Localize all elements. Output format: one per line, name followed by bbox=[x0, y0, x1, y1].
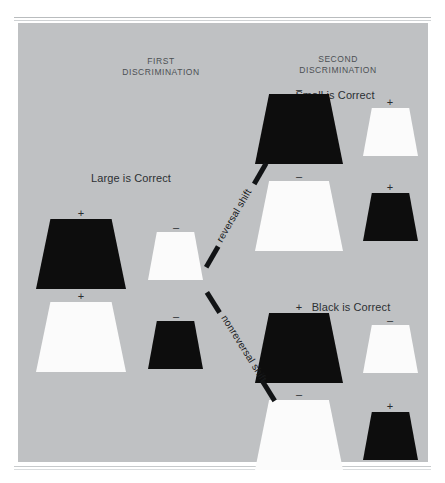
top-rule-lower bbox=[14, 20, 431, 21]
sign-reversal-r1-small-white: + bbox=[380, 97, 400, 107]
sign-nonreversal-r2-small-black: + bbox=[380, 401, 400, 411]
column-title-second-discrimination: SECOND DISCRIMINATION bbox=[273, 54, 403, 76]
sign-reversal-r2-large-white: – bbox=[289, 171, 309, 181]
stimulus-reversal-r2-small-black bbox=[363, 193, 418, 241]
stimulus-reversal-r1-small-white bbox=[363, 108, 418, 156]
stimulus-first-r1-large-black bbox=[36, 219, 126, 289]
column-title-first-discrimination: FIRST DISCRIMINATION bbox=[96, 56, 226, 78]
stimulus-reversal-r1-large-black bbox=[255, 94, 343, 164]
stimulus-nonreversal-r1-small-white bbox=[363, 325, 418, 373]
sign-reversal-r1-large-black: – bbox=[289, 84, 309, 94]
bottom-rule-lower bbox=[14, 469, 431, 470]
sign-reversal-r2-small-black: + bbox=[380, 182, 400, 192]
sign-first-r2-small-black: – bbox=[166, 311, 186, 321]
sign-nonreversal-r2-large-white: – bbox=[289, 389, 309, 399]
stimulus-first-r2-large-white bbox=[36, 302, 126, 372]
sign-first-r1-small-white: – bbox=[166, 222, 186, 232]
stimulus-first-r2-small-black bbox=[148, 321, 203, 369]
bottom-rule-upper bbox=[14, 466, 431, 467]
stimulus-nonreversal-r2-small-black bbox=[363, 412, 418, 460]
arrow-label-nonreversal-shift: nonreversal shift bbox=[219, 313, 269, 384]
stimulus-first-r1-small-white bbox=[148, 232, 203, 280]
arrow-reversal-head-segment bbox=[252, 162, 268, 185]
stimulus-reversal-r2-large-white bbox=[255, 181, 343, 251]
sign-nonreversal-r1-small-white: – bbox=[380, 315, 400, 325]
top-rule-upper bbox=[14, 17, 431, 18]
figure-panel: FIRST DISCRIMINATION SECOND DISCRIMINATI… bbox=[18, 23, 428, 462]
arrow-reversal-shift: reversal shift bbox=[204, 162, 264, 266]
arrow-nonreversal-tail-segment bbox=[205, 291, 222, 314]
arrow-label-reversal-shift: reversal shift bbox=[214, 187, 253, 244]
rule-label-large-is-correct: Large is Correct bbox=[66, 172, 196, 184]
sign-nonreversal-r1-large-black: + bbox=[289, 302, 309, 312]
discrimination-shift-figure: FIRST DISCRIMINATION SECOND DISCRIMINATI… bbox=[0, 0, 445, 483]
stimulus-nonreversal-r1-large-black bbox=[255, 313, 343, 383]
arrow-reversal-tail-segment bbox=[204, 245, 220, 268]
stimulus-nonreversal-r2-large-white bbox=[255, 400, 343, 470]
sign-first-r1-large-black: + bbox=[71, 208, 91, 218]
sign-first-r2-large-white: + bbox=[71, 291, 91, 301]
